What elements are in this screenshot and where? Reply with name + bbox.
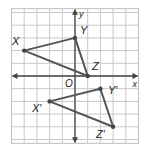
y-axis-label: y [78, 9, 84, 19]
origin-label: O [65, 78, 73, 89]
y-axis-arrow-up-icon [72, 9, 78, 15]
vertex-label-y-prime: Y′ [108, 84, 118, 96]
coordinate-diagram: x y O X Y Z X′ Y′ Z′ [0, 0, 145, 152]
y-axis-arrow-down-icon [72, 137, 78, 143]
vertex-point [47, 99, 51, 103]
vertex-label-z: Z [91, 60, 100, 72]
vertex-point [111, 125, 115, 129]
x-axis-label: x [132, 79, 138, 89]
vertex-point [98, 87, 102, 91]
vertex-label-y: Y [80, 24, 88, 36]
vertex-point [86, 74, 90, 78]
image-triangle-xyz-prime [50, 89, 114, 127]
x-axis-arrow-left-icon [12, 73, 18, 79]
vertex-point [22, 48, 26, 52]
axes: x y O [12, 9, 139, 144]
vertex-label-x-prime: X′ [31, 102, 42, 114]
vertex-label-z-prime: Z′ [95, 128, 106, 140]
preimage-triangle-xyz [24, 38, 87, 76]
vertex-point [73, 36, 77, 40]
vertex-label-x: X [11, 35, 20, 47]
